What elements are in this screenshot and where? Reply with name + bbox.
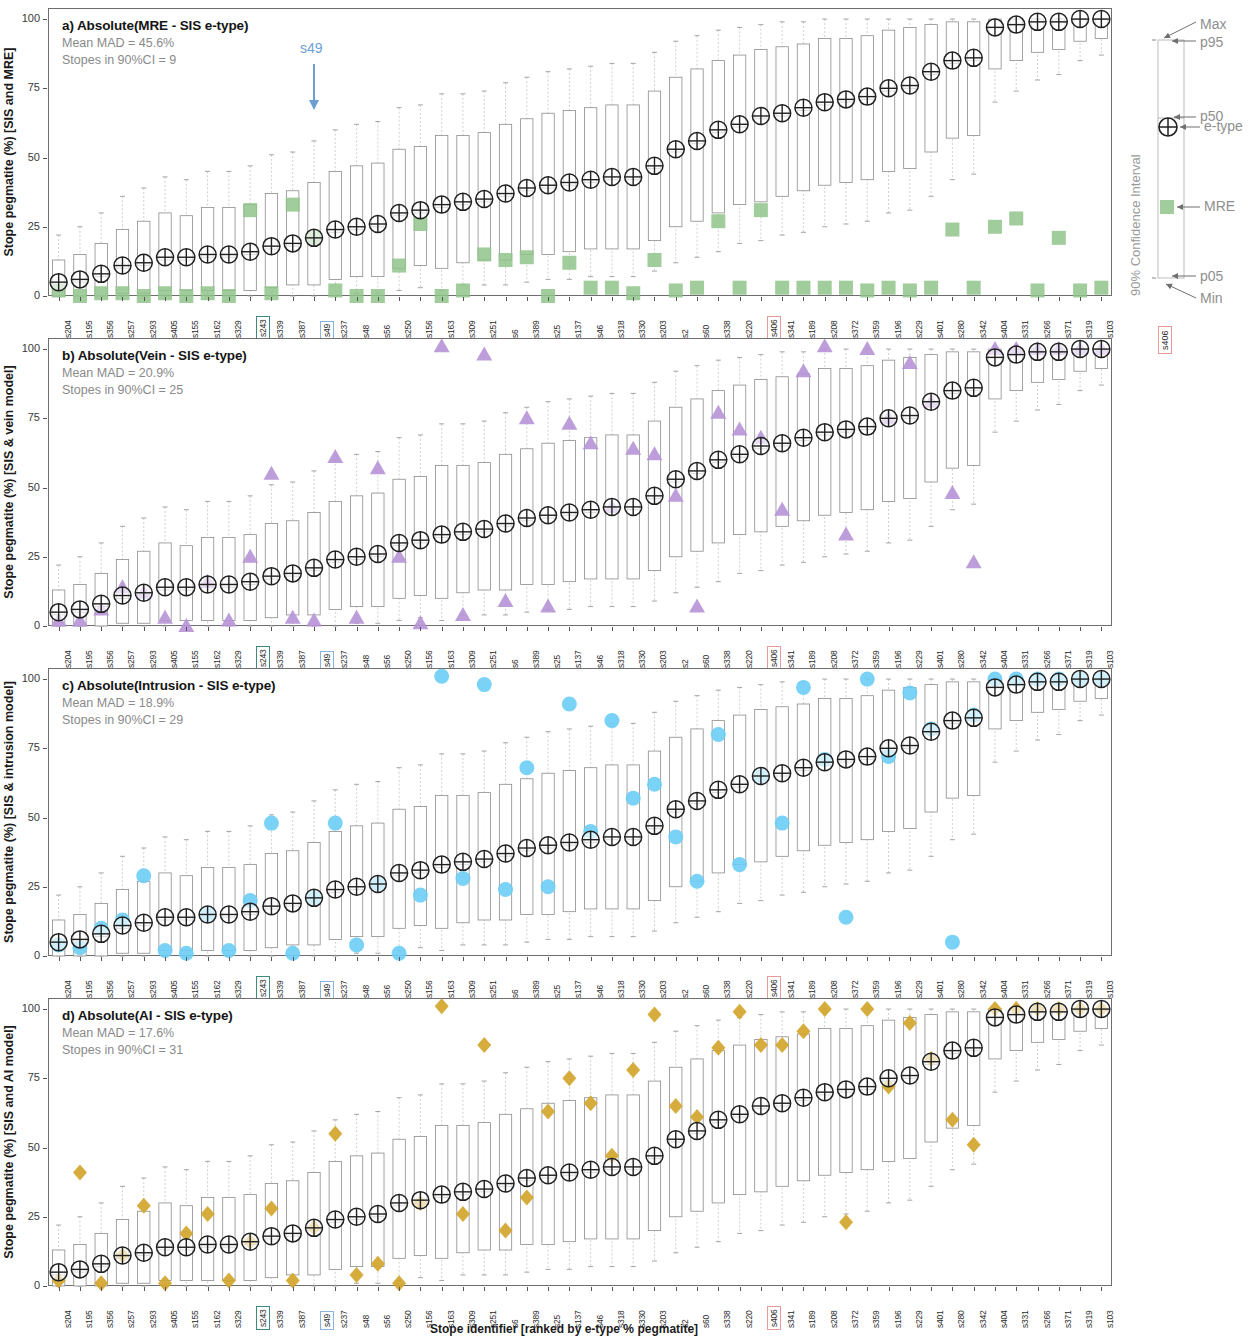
x-tick-label-s342[interactable]: s342: [978, 980, 988, 998]
x-tick-label-s195[interactable]: s195: [84, 980, 94, 998]
x-tick-label-s2[interactable]: s2: [680, 989, 690, 998]
x-tick-label-s103[interactable]: s103: [1105, 980, 1115, 998]
x-tick-label-s387[interactable]: s387: [297, 320, 307, 338]
x-tick-label-s46[interactable]: s46: [595, 325, 605, 338]
x-tick-label-s356[interactable]: s356: [105, 1310, 115, 1328]
x-tick-label-s280[interactable]: s280: [956, 980, 966, 998]
x-tick-label-s339[interactable]: s339: [275, 980, 285, 998]
x-tick-label-s203[interactable]: s203: [658, 320, 668, 338]
x-tick-label-s204[interactable]: s204: [63, 650, 73, 668]
x-tick-label-s204[interactable]: s204: [63, 1310, 73, 1328]
x-tick-label-s342[interactable]: s342: [978, 650, 988, 668]
x-tick-label-s331[interactable]: s331: [1020, 650, 1030, 668]
x-tick-label-s329[interactable]: s329: [233, 1310, 243, 1328]
x-tick-label-s229[interactable]: s229: [914, 320, 924, 338]
x-tick-label-s204[interactable]: s204: [63, 320, 73, 338]
x-tick-label-s237[interactable]: s237: [339, 980, 349, 998]
x-tick-label-s257[interactable]: s257: [126, 650, 136, 668]
x-tick-label-s220[interactable]: s220: [744, 650, 754, 668]
x-tick-label-s331[interactable]: s331: [1020, 980, 1030, 998]
x-tick-label-s387[interactable]: s387: [297, 980, 307, 998]
x-tick-label-s220[interactable]: s220: [744, 320, 754, 338]
x-tick-label-s196[interactable]: s196: [893, 320, 903, 338]
x-tick-label-s318[interactable]: s318: [616, 980, 626, 998]
x-tick-label-s401[interactable]: s401: [935, 320, 945, 338]
x-tick-label-s250[interactable]: s250: [403, 650, 413, 668]
x-tick-label-s404[interactable]: s404: [999, 1310, 1009, 1328]
x-tick-label-s319[interactable]: s319: [1084, 1310, 1094, 1328]
x-tick-label-s280[interactable]: s280: [956, 650, 966, 668]
x-tick-label-s356[interactable]: s356: [105, 980, 115, 998]
x-tick-label-s330[interactable]: s330: [637, 650, 647, 668]
x-tick-label-s195[interactable]: s195: [84, 1310, 94, 1328]
x-tick-label-s372[interactable]: s372: [850, 980, 860, 998]
x-tick-label-s204[interactable]: s204: [63, 980, 73, 998]
x-tick-label-s60[interactable]: s60: [701, 1315, 711, 1328]
x-tick-label-s229[interactable]: s229: [914, 1310, 924, 1328]
x-tick-label-s389[interactable]: s389: [531, 320, 541, 338]
x-tick-label-s220[interactable]: s220: [744, 1310, 754, 1328]
x-tick-label-s208[interactable]: s208: [829, 980, 839, 998]
x-tick-label-s372[interactable]: s372: [850, 1310, 860, 1328]
x-tick-label-s405[interactable]: s405: [169, 980, 179, 998]
x-tick-label-s356[interactable]: s356: [105, 650, 115, 668]
x-tick-label-s329[interactable]: s329: [233, 650, 243, 668]
x-tick-label-s25[interactable]: s25: [552, 325, 562, 338]
x-tick-label-s341[interactable]: s341: [786, 980, 796, 998]
x-tick-label-s243[interactable]: s243: [256, 1306, 270, 1330]
x-tick-label-s405[interactable]: s405: [169, 320, 179, 338]
x-tick-label-s331[interactable]: s331: [1020, 320, 1030, 338]
x-tick-label-s387[interactable]: s387: [297, 1310, 307, 1328]
x-tick-label-s250[interactable]: s250: [403, 320, 413, 338]
x-tick-label-s208[interactable]: s208: [829, 1310, 839, 1328]
x-tick-label-s155[interactable]: s155: [190, 980, 200, 998]
x-tick-label-s195[interactable]: s195: [84, 320, 94, 338]
x-tick-label-s189[interactable]: s189: [807, 320, 817, 338]
x-tick-label-s46[interactable]: s46: [595, 985, 605, 998]
x-tick-label-s155[interactable]: s155: [190, 650, 200, 668]
x-tick-label-s309[interactable]: s309: [467, 650, 477, 668]
x-tick-label-s338[interactable]: s338: [722, 650, 732, 668]
x-tick-label-s338[interactable]: s338: [722, 980, 732, 998]
x-tick-label-s2[interactable]: s2: [680, 329, 690, 338]
x-tick-label-s220[interactable]: s220: [744, 980, 754, 998]
x-tick-label-s338[interactable]: s338: [722, 320, 732, 338]
x-tick-label-s341[interactable]: s341: [786, 1310, 796, 1328]
x-tick-label-s406[interactable]: s406: [767, 316, 781, 340]
x-tick-label-s137[interactable]: s137: [573, 650, 583, 668]
x-tick-label-s243[interactable]: s243: [256, 316, 270, 340]
x-tick-label-s266[interactable]: s266: [1042, 980, 1052, 998]
x-tick-label-s103[interactable]: s103: [1105, 1310, 1115, 1328]
x-tick-label-s341[interactable]: s341: [786, 650, 796, 668]
x-tick-label-s56[interactable]: s56: [382, 1315, 392, 1328]
x-tick-label-s266[interactable]: s266: [1042, 1310, 1052, 1328]
x-tick-label-s189[interactable]: s189: [807, 980, 817, 998]
x-tick-label-s163[interactable]: s163: [446, 980, 456, 998]
x-tick-label-s251[interactable]: s251: [488, 980, 498, 998]
x-tick-label-s56[interactable]: s56: [382, 655, 392, 668]
x-tick-label-s338[interactable]: s338: [722, 1310, 732, 1328]
x-tick-label-s404[interactable]: s404: [999, 980, 1009, 998]
legend-highlight-stope[interactable]: s406: [1158, 326, 1172, 354]
x-tick-label-s155[interactable]: s155: [190, 1310, 200, 1328]
x-tick-label-s237[interactable]: s237: [339, 1310, 349, 1328]
x-tick-label-s371[interactable]: s371: [1063, 1310, 1073, 1328]
x-tick-label-s250[interactable]: s250: [403, 1310, 413, 1328]
x-tick-label-s237[interactable]: s237: [339, 650, 349, 668]
x-tick-label-s257[interactable]: s257: [126, 320, 136, 338]
x-tick-label-s196[interactable]: s196: [893, 980, 903, 998]
x-tick-label-s6[interactable]: s6: [510, 659, 520, 668]
x-tick-label-s60[interactable]: s60: [701, 985, 711, 998]
x-tick-label-s329[interactable]: s329: [233, 980, 243, 998]
x-tick-label-s163[interactable]: s163: [446, 320, 456, 338]
x-tick-label-s342[interactable]: s342: [978, 1310, 988, 1328]
x-tick-label-s156[interactable]: s156: [424, 980, 434, 998]
x-tick-label-s25[interactable]: s25: [552, 655, 562, 668]
x-tick-label-s359[interactable]: s359: [871, 980, 881, 998]
x-tick-label-s293[interactable]: s293: [148, 1310, 158, 1328]
x-tick-label-s266[interactable]: s266: [1042, 320, 1052, 338]
x-tick-label-s405[interactable]: s405: [169, 1310, 179, 1328]
x-tick-label-s371[interactable]: s371: [1063, 650, 1073, 668]
x-tick-label-s293[interactable]: s293: [148, 980, 158, 998]
x-tick-label-s389[interactable]: s389: [531, 650, 541, 668]
